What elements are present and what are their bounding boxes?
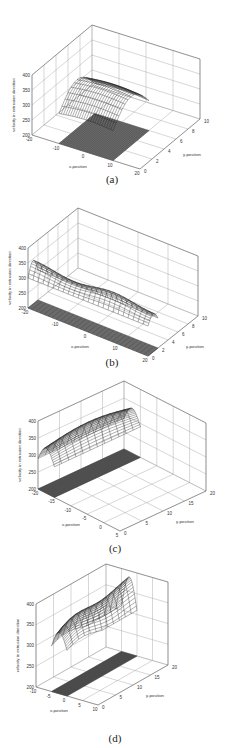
surface-mesh-line — [66, 606, 136, 648]
z-axis-label: velocity in extrusion direction — [11, 78, 16, 132]
x-tick-label: 20 — [142, 358, 148, 363]
x-tick-label: 5 — [78, 703, 81, 708]
floor-hatch — [57, 653, 127, 693]
gridline-back-z — [124, 398, 206, 440]
floor-hatch — [52, 652, 122, 692]
y-axis-label: y-position — [183, 152, 202, 157]
y-tick-label: 15 — [189, 501, 195, 506]
floor-hatch — [53, 652, 123, 692]
z-tick-label: 400 — [18, 246, 26, 251]
floor-hatch — [48, 454, 134, 494]
floor-hatch — [44, 452, 130, 492]
z-tick-label: 300 — [28, 453, 36, 458]
y-tick-label: 0 — [152, 356, 155, 361]
z-tick-label: 300 — [26, 643, 34, 648]
floor-hatch — [60, 654, 130, 694]
x-axis-label: x-position — [62, 522, 81, 527]
plot-svg-c: 200250300350400-20-15-10-50505101520x-po… — [0, 372, 230, 558]
floor-hatch — [51, 455, 137, 495]
gridline-back-z — [124, 415, 206, 457]
plot-area-c: 200250300350400-20-15-10-50505101520x-po… — [17, 381, 216, 538]
z-tick-label: 400 — [22, 73, 30, 78]
y-axis-label: y-position — [186, 344, 205, 349]
z-tick-label: 300 — [18, 276, 26, 281]
y-tick-label: 20 — [210, 491, 216, 496]
x-axis-label: x-position — [71, 344, 90, 349]
floor-hatch — [63, 655, 133, 695]
z-axis-label: velocity in extrusion direction — [15, 618, 20, 672]
x-tick-label: 5 — [116, 533, 119, 538]
floor-hatch — [55, 653, 125, 693]
floor-hatch — [56, 653, 126, 693]
caption-a: (a) — [106, 173, 119, 186]
floor-hatch — [59, 654, 129, 694]
z-tick-label: 250 — [28, 470, 36, 475]
x-tick-label: 0 — [82, 154, 85, 159]
y-tick-label: 20 — [172, 665, 178, 670]
plot-svg-a: 200250300350400-20-10010200246810x-posit… — [0, 0, 230, 188]
floor-hatch — [41, 450, 127, 490]
y-tick-label: 6 — [180, 139, 183, 144]
floor-hatch — [45, 453, 131, 493]
y-tick-label: 15 — [155, 675, 161, 680]
floor-hatch — [53, 652, 123, 692]
surface-plot-c: 200250300350400-20-15-10-50505101520x-po… — [0, 372, 230, 558]
gridline-back-z — [124, 432, 206, 474]
z-tick-label: 250 — [22, 118, 30, 123]
floor-hatch — [58, 653, 128, 693]
plot-svg-d: 200250300350400-10-5051005101520x-positi… — [0, 560, 230, 748]
x-tick-label: -10 — [52, 322, 59, 327]
floor-hatch — [59, 654, 129, 694]
x-tick-label: -10 — [53, 146, 60, 151]
x-tick-label: 20 — [134, 171, 140, 176]
x-tick-label: 10 — [92, 707, 98, 712]
gridline-left-z — [28, 223, 78, 263]
floor-hatch — [66, 656, 136, 696]
y-tick-label: 2 — [162, 348, 165, 353]
z-axis-label: velocity in extrusion direction — [7, 251, 12, 305]
surface-plot-b: 200250300350400-20-10010200246810x-posit… — [0, 190, 230, 370]
floor-hatch — [67, 656, 137, 696]
y-axis-label: y-position — [146, 693, 165, 698]
plot-svg-b: 200250300350400-20-10010200246810x-posit… — [0, 190, 230, 370]
x-tick-label: 0 — [63, 698, 66, 703]
caption-c: (c) — [109, 542, 122, 555]
surface-mesh-line — [48, 410, 134, 450]
floor-hatch — [50, 455, 136, 495]
y-tick-label: 10 — [202, 316, 208, 321]
x-tick-label: 0 — [99, 525, 102, 530]
x-axis-label: x-position — [50, 708, 69, 713]
x-tick-label: -10 — [30, 689, 37, 694]
x-tick-label: -5 — [46, 694, 50, 699]
z-tick-label: 350 — [18, 261, 26, 266]
floor-hatch — [47, 454, 133, 494]
surface-mesh-line — [74, 83, 128, 100]
z-tick-label: 400 — [28, 419, 36, 424]
plot-area-a: 200250300350400-20-10010200246810x-posit… — [11, 25, 210, 176]
floor-hatch — [58, 653, 128, 693]
x-tick-label: -15 — [48, 499, 55, 504]
floor-hatch — [64, 655, 134, 695]
x-tick-label: 10 — [107, 163, 113, 168]
gridline-left-z — [32, 40, 92, 90]
z-tick-label: 250 — [26, 664, 34, 669]
floor-hatch — [56, 653, 126, 693]
x-axis-label: x-position — [69, 164, 88, 169]
floor-hatch — [63, 655, 133, 695]
z-tick-label: 350 — [22, 88, 30, 93]
surface-mesh-line — [62, 584, 132, 636]
floor-hatch — [43, 452, 129, 492]
y-tick-label: 0 — [102, 705, 105, 710]
surface-plot-a: 200250300350400-20-10010200246810x-posit… — [0, 0, 230, 188]
plot-area-b: 200250300350400-20-10010200246810x-posit… — [7, 208, 208, 363]
floor-hatch — [42, 451, 128, 491]
axis-edge — [140, 119, 200, 169]
gridline-left-z — [28, 253, 78, 293]
floor-hatch — [65, 655, 135, 695]
caption-b: (b) — [106, 356, 119, 369]
floor-hatch — [57, 653, 127, 693]
floor-hatch — [62, 655, 132, 695]
axis-edge — [32, 25, 92, 75]
surface-mesh-line — [73, 283, 83, 296]
gridline-left-z — [28, 238, 78, 278]
